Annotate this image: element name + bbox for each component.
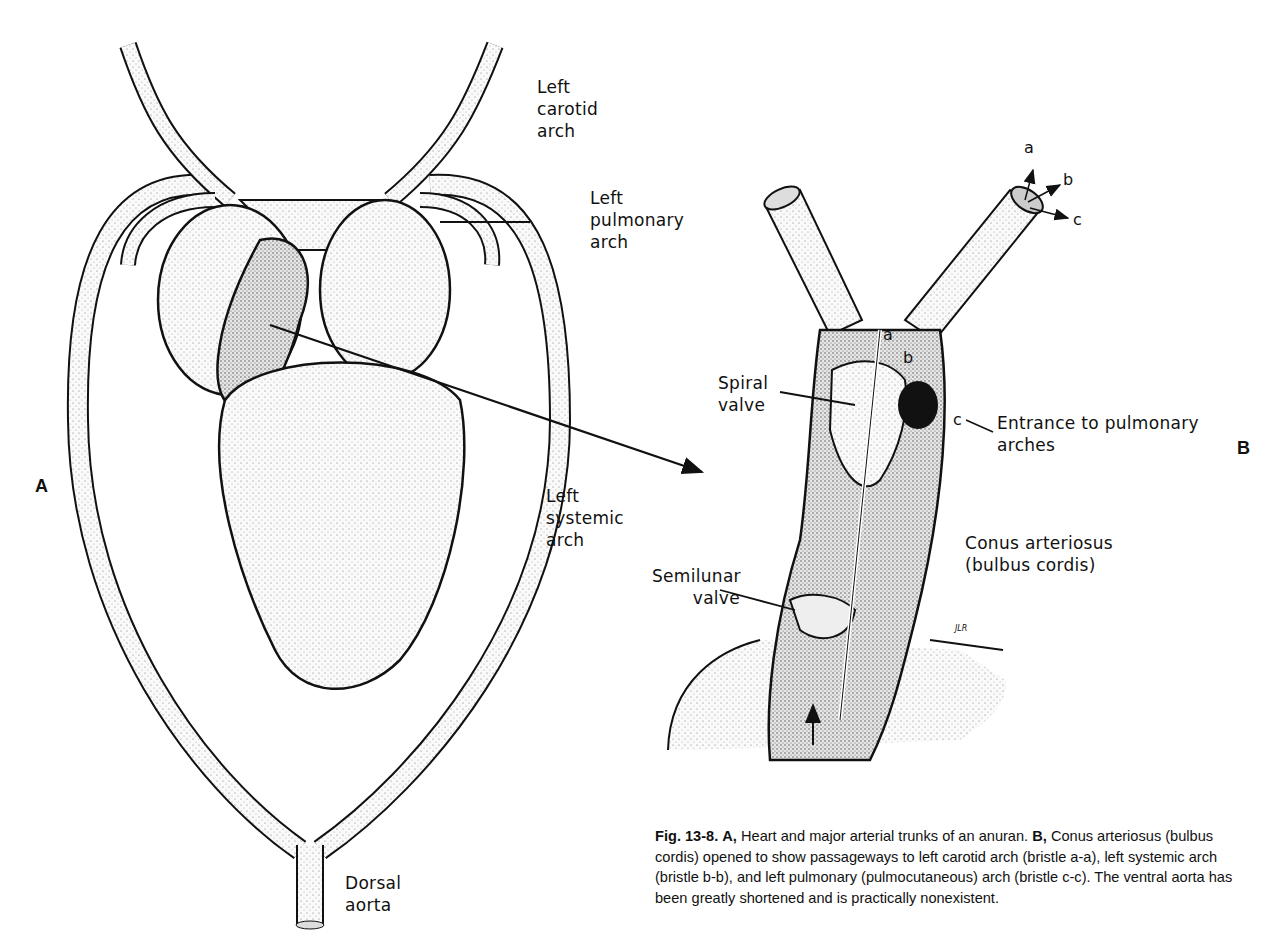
label-left-pulmonary-arch: Left pulmonary arch xyxy=(590,187,684,253)
panel-label-a: A xyxy=(35,476,48,497)
label-conus-arteriosus: Conus arteriosus (bulbus cordis) xyxy=(965,532,1113,576)
bristle-label-c-inner: c xyxy=(953,410,962,429)
caption-part-a-marker: A, xyxy=(722,828,737,844)
label-spiral-valve: Spiral valve xyxy=(718,372,768,416)
panel-label-b: B xyxy=(1237,438,1250,459)
bristle-label-a-inner: a xyxy=(883,325,893,344)
artist-initials: JLR xyxy=(955,624,967,633)
label-left-systemic-arch: Left systemic arch xyxy=(546,485,624,551)
label-entrance-pulmonary-arches: Entrance to pulmonary arches xyxy=(997,412,1199,456)
bristle-label-a-top: a xyxy=(1024,138,1034,157)
label-left-carotid-arch: Left carotid arch xyxy=(537,76,598,142)
anatomy-illustration xyxy=(0,0,1265,952)
leader-line-entrance xyxy=(966,420,993,432)
panel-a-drawing xyxy=(78,45,560,929)
label-semilunar-valve: Semilunar valve xyxy=(652,565,740,609)
caption-fig-number: Fig. 13-8. xyxy=(655,828,718,844)
label-dorsal-aorta: Dorsal aorta xyxy=(345,872,401,916)
bristle-label-c-top: c xyxy=(1073,210,1082,229)
bristle-label-b-top: b xyxy=(1063,170,1073,189)
figure-caption: Fig. 13-8. A, Heart and major arterial t… xyxy=(655,826,1255,908)
caption-part-a-text: Heart and major arterial trunks of an an… xyxy=(741,828,1028,844)
bristle-label-b-inner: b xyxy=(903,348,913,367)
panel-b-drawing xyxy=(668,170,1068,760)
caption-part-b-marker: B, xyxy=(1032,828,1047,844)
